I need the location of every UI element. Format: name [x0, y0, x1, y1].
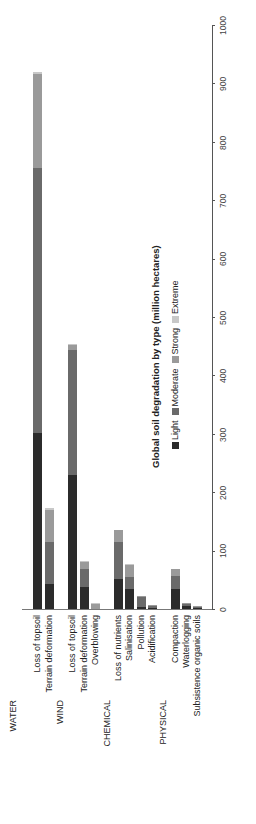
y-axis-tick: [212, 609, 215, 610]
y-axis-tick-label: 0: [218, 607, 228, 612]
y-axis-tick-label: 700: [218, 194, 228, 208]
legend-label-light: Light: [170, 420, 180, 440]
x-axis-baseline: [22, 609, 212, 610]
bar-segment-light: [193, 607, 202, 609]
chart-legend: LightModerateStrongExtreme: [170, 280, 180, 454]
bar-segment-strong: [182, 603, 191, 604]
bar-segment-moderate: [68, 350, 77, 474]
y-axis-tick: [212, 434, 215, 435]
bar-segment-moderate: [137, 597, 146, 607]
category-label: Waterlogging: [181, 615, 191, 668]
bar-segment-strong: [171, 569, 180, 575]
y-axis-tick: [212, 83, 215, 84]
category-label: Loss of topsoil: [67, 615, 77, 673]
legend-label-extreme: Extreme: [170, 280, 180, 314]
legend-swatch-strong: [172, 356, 179, 363]
bar-segment-moderate: [45, 542, 54, 584]
y-axis-tick: [212, 25, 215, 26]
y-axis-tick-label: 600: [218, 252, 228, 266]
bar-segment-strong: [114, 530, 123, 542]
bar-segment-light: [114, 579, 123, 609]
bar-segment-strong: [137, 596, 146, 597]
y-axis-tick: [212, 375, 215, 376]
y-axis-tick-label: 400: [218, 369, 228, 383]
bar-segment-light: [125, 589, 134, 609]
bar-segment-extreme: [68, 344, 77, 345]
bar-segment-strong: [33, 74, 42, 168]
category-label: Overblowing: [90, 615, 100, 665]
category-label: Compaction: [170, 615, 180, 663]
y-axis-tick-label: 800: [218, 135, 228, 149]
bar-segment-light: [171, 589, 180, 609]
y-axis-tick: [212, 200, 215, 201]
bar-segment-moderate: [114, 542, 123, 579]
legend-swatch-moderate: [172, 408, 179, 415]
category-label: Pollution: [136, 615, 146, 650]
group-label: WIND: [55, 700, 65, 724]
category-label: Salinisation: [124, 615, 134, 661]
group-label: WATER: [8, 700, 18, 732]
bar-segment-strong: [80, 561, 89, 569]
y-axis-tick-label: 500: [218, 311, 228, 325]
bar-segment-strong: [45, 510, 54, 543]
chart-title: Global soil degradation by type (million…: [150, 245, 161, 468]
y-axis-tick-label: 300: [218, 427, 228, 441]
bar-segment-light: [68, 475, 77, 609]
category-label: Loss of nutrients: [113, 615, 123, 681]
y-axis-tick-label: 100: [218, 544, 228, 558]
y-axis-tick: [212, 492, 215, 493]
legend-swatch-extreme: [172, 316, 179, 323]
soil-degradation-chart: Global soil degradation by type (million…: [0, 0, 256, 824]
bar-segment-light: [148, 608, 157, 609]
bar-segment-moderate: [182, 604, 191, 606]
bar-segment-light: [182, 606, 191, 609]
bar-segment-light: [80, 587, 89, 609]
category-label: Subsistence organic soils: [192, 615, 202, 717]
bar-segment-strong: [68, 345, 77, 350]
category-label: Acidification: [147, 615, 157, 663]
bar-segment-moderate: [33, 168, 42, 433]
bar-segment-strong: [193, 606, 202, 607]
bar-segment-moderate: [171, 576, 180, 589]
bar-segment-moderate: [125, 577, 134, 589]
bar-segment-moderate: [193, 607, 202, 608]
bar-segment-light: [33, 433, 42, 609]
y-axis-tick-label: 200: [218, 486, 228, 500]
bar-segment-extreme: [33, 72, 42, 74]
legend-swatch-light: [172, 442, 179, 449]
y-axis-tick-label: 1000: [218, 16, 228, 35]
legend-label-strong: Strong: [170, 328, 180, 355]
y-axis-tick-label: 900: [218, 77, 228, 91]
bar-segment-strong: [148, 605, 157, 606]
category-label: Terrain deformation: [79, 615, 89, 693]
bar-segment-strong: [91, 603, 100, 609]
legend-label-moderate: Moderate: [170, 368, 180, 406]
category-label: Loss of topsoil: [32, 615, 42, 673]
group-label: PHYSICAL: [158, 700, 168, 745]
category-label: Terrain deformation: [44, 615, 54, 693]
bar-segment-moderate: [148, 606, 157, 608]
bar-segment-extreme: [45, 508, 54, 510]
y-axis-tick: [212, 317, 215, 318]
bar-segment-extreme: [91, 603, 100, 604]
bar-segment-moderate: [80, 569, 89, 587]
y-axis-tick: [212, 259, 215, 260]
group-label: CHEMICAL: [102, 700, 112, 747]
y-axis-tick: [212, 142, 215, 143]
bar-segment-extreme: [125, 564, 134, 565]
bar-segment-extreme: [80, 561, 89, 562]
bar-segment-light: [137, 607, 146, 609]
y-axis-tick: [212, 551, 215, 552]
bar-segment-light: [45, 584, 54, 609]
bar-segment-strong: [125, 565, 134, 577]
